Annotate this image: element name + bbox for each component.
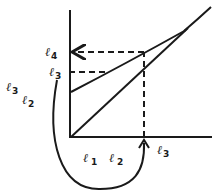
label-l2-outer: ℓ2 — [22, 93, 34, 109]
label-l2-bottom: ℓ2 — [109, 151, 123, 167]
label-l3-outer: ℓ3 — [6, 80, 18, 96]
curved-arrow — [53, 80, 144, 189]
label-l3-bottom: ℓ3 — [157, 143, 169, 159]
label-l1-bottom: ℓ1 — [83, 151, 97, 167]
iteration-diagram: ℓ4 ℓ3 ℓ3 ℓ2 ℓ1 ℓ2 ℓ3 — [0, 0, 217, 191]
label-l4: ℓ4 — [45, 45, 57, 61]
curve-extension — [184, 7, 211, 31]
label-l3-axis: ℓ3 — [49, 65, 61, 81]
